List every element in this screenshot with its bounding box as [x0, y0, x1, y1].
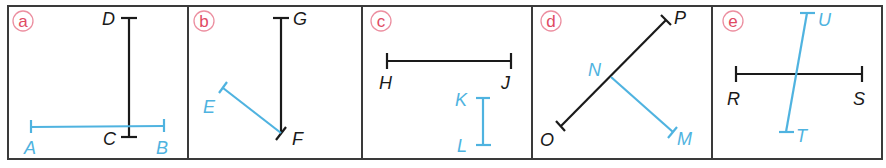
segment-rs	[736, 66, 862, 82]
point-label-m: M	[677, 129, 692, 149]
figure-canvas: a D C A B b	[0, 0, 886, 168]
point-label-d: D	[102, 9, 115, 29]
point-label-f: F	[292, 129, 304, 149]
panel-c: c H J K L	[371, 11, 511, 156]
panel-label: c	[377, 12, 386, 31]
panel-label: e	[728, 12, 737, 31]
panel-b: b G F E	[194, 9, 307, 149]
panel-e: e R S U T	[723, 10, 865, 146]
segment-gf	[273, 18, 289, 140]
point-label-o: O	[540, 130, 554, 150]
segment-ut	[779, 13, 815, 132]
panel-label: b	[199, 12, 208, 31]
segment-dc	[121, 18, 137, 137]
segment-ab	[31, 119, 164, 133]
point-label-p: P	[674, 8, 686, 28]
point-label-u: U	[818, 10, 832, 30]
point-label-h: H	[379, 73, 393, 93]
panel-d: d O P N M	[540, 8, 692, 150]
point-label-t: T	[796, 126, 809, 146]
segment-kl	[476, 98, 491, 145]
point-label-n: N	[588, 60, 602, 80]
point-label-c: C	[103, 129, 117, 149]
point-label-l: L	[457, 136, 467, 156]
panel-label: a	[18, 12, 28, 31]
segment-nm	[611, 77, 677, 138]
point-label-s: S	[853, 89, 865, 109]
segment-ef	[219, 82, 281, 133]
segment-hj	[387, 53, 511, 69]
point-label-g: G	[293, 9, 307, 29]
segments-figure: a D C A B b	[0, 0, 886, 168]
point-label-a: A	[23, 138, 36, 158]
panel-label: d	[546, 12, 555, 31]
point-label-e: E	[203, 97, 216, 117]
point-label-k: K	[455, 90, 468, 110]
point-label-r: R	[727, 89, 740, 109]
point-label-j: J	[500, 73, 511, 93]
point-label-b: B	[156, 138, 168, 158]
panel-a: a D C A B	[13, 9, 168, 158]
figure-frame	[8, 6, 882, 159]
